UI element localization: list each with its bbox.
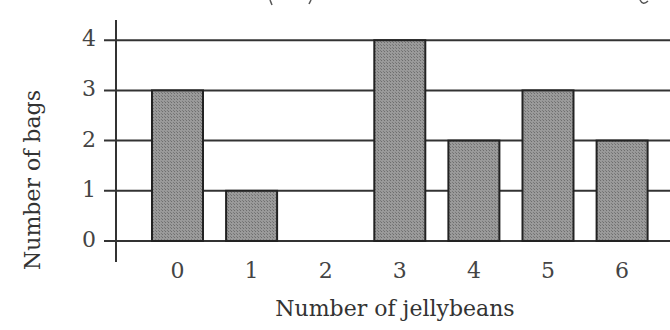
title-fragment — [270, 0, 272, 5]
y-tick-label: 3 — [70, 78, 96, 100]
x-tick-label: 1 — [232, 258, 272, 283]
title-fragment — [309, 0, 311, 4]
x-tick-label: 4 — [454, 258, 494, 283]
x-tick-label: 5 — [528, 258, 568, 283]
bar — [448, 141, 499, 241]
x-tick-label: 3 — [380, 258, 420, 283]
title-fragment — [640, 0, 648, 3]
bar — [523, 90, 574, 241]
bar — [374, 40, 425, 241]
bar — [597, 141, 648, 241]
x-axis-label: Number of jellybeans — [0, 296, 670, 321]
y-tick-label: 1 — [70, 179, 96, 201]
x-tick-label: 2 — [306, 258, 346, 283]
y-tick-label: 4 — [70, 28, 96, 50]
x-tick-label: 6 — [602, 258, 642, 283]
y-tick-label: 2 — [70, 129, 96, 151]
y-axis-label: Number of bags — [12, 80, 52, 280]
bar — [226, 191, 277, 241]
y-tick-label: 0 — [70, 229, 96, 251]
bar — [152, 90, 203, 241]
bar-chart: Number of bags 01234 0123456 Number of j… — [0, 0, 670, 330]
x-tick-label: 0 — [158, 258, 198, 283]
